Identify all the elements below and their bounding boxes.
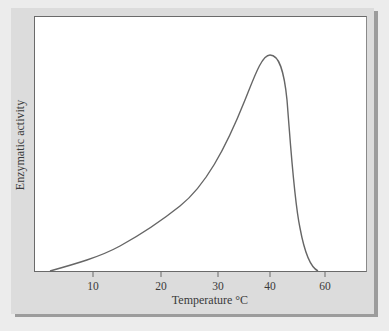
x-tick-label-30: 30 — [212, 280, 224, 292]
enzyme-activity-curve — [50, 55, 318, 271]
x-tick-label-60: 60 — [319, 280, 331, 292]
x-tick-label-20: 20 — [155, 280, 167, 292]
x-tick-label-40: 40 — [264, 280, 276, 292]
x-axis-label: Temperature °C — [172, 293, 248, 308]
x-axis-ticks — [93, 271, 325, 277]
x-tick-label-10: 10 — [87, 280, 99, 292]
y-axis-label: Enzymatic activity — [13, 100, 28, 190]
